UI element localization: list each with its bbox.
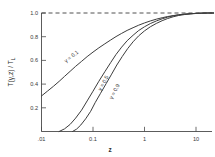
curve-gamma-0-9 — [73, 13, 214, 132]
y-tick-label: 1.0 — [30, 10, 38, 16]
chart-figure: 1.0 0.8 0.6 0.4 0.2 .01 0.1 1 10 γ = 0.1… — [0, 0, 215, 157]
x-tick-labels: .01 0.1 1 10 — [38, 136, 200, 142]
y-tick-label: 0.2 — [30, 105, 38, 111]
curve-label-gamma-0-5: γ = 0.5 — [97, 75, 110, 92]
curve-label-gamma-0-1: γ = 0.1 — [63, 49, 80, 64]
x-axis-title: z — [108, 146, 111, 153]
curve-label-gamma-0-9: γ = 0.9 — [108, 83, 121, 100]
x-tick-label: 10 — [193, 136, 199, 142]
x-tick-label: .01 — [38, 136, 46, 142]
curve-gamma-0-5 — [59, 13, 214, 132]
y-axis-title-subscript: L — [11, 57, 16, 60]
y-tick-labels: 1.0 0.8 0.6 0.4 0.2 — [30, 10, 38, 111]
y-tick-label: 0.4 — [30, 81, 38, 87]
y-axis-title-main: T(γ,z) / T — [7, 60, 15, 86]
y-tick-label: 0.6 — [30, 57, 38, 63]
y-tick-label: 0.8 — [30, 34, 38, 40]
x-tick-label: 1 — [143, 136, 146, 142]
y-axis-title: T(γ,z) / TL — [7, 57, 16, 86]
x-tick-label: 0.1 — [89, 136, 97, 142]
chart-svg: 1.0 0.8 0.6 0.4 0.2 .01 0.1 1 10 γ = 0.1… — [0, 0, 215, 157]
svg-text:T(γ,z) / TL: T(γ,z) / TL — [7, 57, 16, 86]
